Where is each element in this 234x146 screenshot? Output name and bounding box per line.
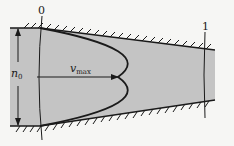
n0-label-sub: 0 <box>18 73 22 81</box>
n0-label-base: n <box>11 67 18 80</box>
section-1-label: 1 <box>202 20 209 33</box>
section-0-label: 0 <box>38 4 45 17</box>
channel-diagram: 0 1 n0 vmax <box>0 0 234 146</box>
vmax-label-sub: max <box>76 68 91 76</box>
